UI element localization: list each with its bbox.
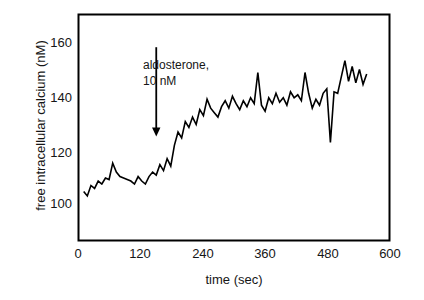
y-tick-label-160: 160 [32,35,72,50]
axes-frame [79,15,390,241]
y-tick-label-140: 140 [32,90,72,105]
annotation-line-2: 10 nM [143,74,176,89]
x-tick-label-120: 120 [117,246,163,261]
x-axis-title: time (sec) [78,272,390,287]
x-tick-label-360: 360 [242,246,288,261]
y-tick-label-100: 100 [32,196,72,211]
x-tick-label-0: 0 [55,246,101,261]
x-tick-label-240: 240 [180,246,226,261]
data-series-line [84,61,367,196]
y-tick-label-120: 120 [32,145,72,160]
x-tick-label-600: 600 [367,246,413,261]
annotation-line-1: aldosterone, [143,58,209,73]
x-tick-label-480: 480 [305,246,351,261]
chart-figure: free intracellular calcium (nM) 160 140 … [0,0,424,300]
